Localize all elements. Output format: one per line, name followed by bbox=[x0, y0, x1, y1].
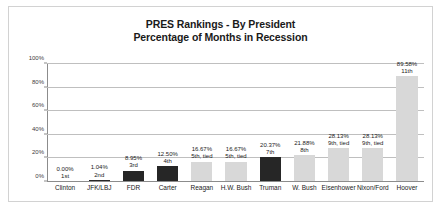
x-axis-category-label: JFK/LBJ bbox=[82, 184, 116, 191]
y-axis-tick-label: 100% bbox=[29, 55, 44, 61]
bar-rank-label: 2nd bbox=[91, 172, 108, 179]
chart-title-line-1: PRES Rankings - By President bbox=[9, 18, 432, 31]
x-axis-line bbox=[47, 181, 424, 182]
bar-rank-label: 3rd bbox=[125, 162, 142, 169]
bar-rank-label: 9th, tied bbox=[328, 140, 349, 147]
chart-title-line-2: Percentage of Months in Recession bbox=[9, 31, 432, 44]
x-axis-category-label: Nixon/Ford bbox=[356, 184, 390, 191]
y-axis-tick-mark bbox=[44, 133, 47, 134]
y-axis-tick-label: 60% bbox=[32, 102, 44, 108]
bar[interactable]: 12.50%4th bbox=[157, 166, 178, 181]
x-axis-category-label: H.W. Bush bbox=[219, 184, 253, 191]
bar-value-label: 21.88% bbox=[294, 140, 314, 147]
x-axis-category-label: Eisenhower bbox=[322, 184, 356, 191]
bar-slot: 16.67%5th, tied bbox=[185, 64, 219, 181]
y-axis-tick-mark bbox=[44, 157, 47, 158]
bar-value-label: 28.13% bbox=[328, 133, 349, 140]
bar[interactable]: 28.13%9th, tied bbox=[328, 148, 349, 181]
x-axis-category-labels: ClintonJFK/LBJFDRCarterReaganH.W. BushTr… bbox=[48, 184, 424, 191]
bar-value-label: 8.95% bbox=[125, 155, 142, 162]
bar[interactable]: 20.37%7th bbox=[260, 157, 281, 181]
bar-slot: 89.58%11th bbox=[390, 64, 424, 181]
bar-data-label: 89.58%11th bbox=[397, 61, 417, 75]
bar-slot: 12.50%4th bbox=[151, 64, 185, 181]
bar-data-label: 16.67%5th, tied bbox=[191, 146, 212, 160]
bar-rank-label: 8th bbox=[294, 147, 314, 154]
bar[interactable]: 89.58%11th bbox=[396, 76, 417, 181]
bar-series: 0.00%1st1.04%2nd8.95%3rd12.50%4th16.67%5… bbox=[48, 64, 424, 181]
bar-slot: 0.00%1st bbox=[48, 64, 82, 181]
bar-rank-label: 7th bbox=[260, 149, 280, 156]
y-axis-tick-label: 80% bbox=[32, 79, 44, 85]
bar-data-label: 1.04%2nd bbox=[91, 164, 108, 178]
bar[interactable]: 8.95%3rd bbox=[123, 171, 144, 181]
bar-value-label: 1.04% bbox=[91, 164, 108, 171]
bar[interactable]: 28.13%9th, tied bbox=[362, 148, 383, 181]
x-axis-category-label: FDR bbox=[116, 184, 150, 191]
bar-rank-label: 9th, tied bbox=[362, 140, 383, 147]
bar-value-label: 89.58% bbox=[397, 61, 417, 68]
x-axis-category-label: Carter bbox=[151, 184, 185, 191]
bar-data-label: 21.88%8th bbox=[294, 140, 314, 154]
bar-data-label: 8.95%3rd bbox=[125, 155, 142, 169]
bar-slot: 20.37%7th bbox=[253, 64, 287, 181]
x-axis-category-label: Clinton bbox=[48, 184, 82, 191]
bar-data-label: 20.37%7th bbox=[260, 142, 280, 156]
bar-value-label: 20.37% bbox=[260, 142, 280, 149]
y-axis-tick-label: 20% bbox=[32, 149, 44, 155]
chart-title: PRES Rankings - By President Percentage … bbox=[9, 18, 432, 43]
y-axis-tick-mark bbox=[44, 86, 47, 87]
bar-data-label: 0.00%1st bbox=[57, 166, 74, 180]
x-axis-category-label: Truman bbox=[253, 184, 287, 191]
x-axis-category-label: Reagan bbox=[185, 184, 219, 191]
bar-slot: 21.88%8th bbox=[287, 64, 321, 181]
bar-value-label: 0.00% bbox=[57, 166, 74, 173]
bar-data-label: 28.13%9th, tied bbox=[328, 133, 349, 147]
bar[interactable]: 16.67%5th, tied bbox=[191, 162, 212, 182]
bar-slot: 28.13%9th, tied bbox=[322, 64, 356, 181]
y-axis-tick-label: 0% bbox=[35, 173, 44, 179]
y-axis-tick-mark bbox=[44, 110, 47, 111]
y-axis-tick-label: 40% bbox=[32, 126, 44, 132]
bar-data-label: 16.67%5th, tied bbox=[225, 146, 246, 160]
bar-slot: 16.67%5th, tied bbox=[219, 64, 253, 181]
bar-data-label: 12.50%4th bbox=[157, 151, 177, 165]
bar[interactable]: 16.67%5th, tied bbox=[225, 162, 246, 182]
bar-slot: 28.13%9th, tied bbox=[356, 64, 390, 181]
bar-rank-label: 1st bbox=[57, 173, 74, 180]
bar-value-label: 16.67% bbox=[225, 146, 246, 153]
bar-value-label: 12.50% bbox=[157, 151, 177, 158]
bar-slot: 1.04%2nd bbox=[82, 64, 116, 181]
bar-rank-label: 5th, tied bbox=[225, 153, 246, 160]
bar[interactable]: 21.88%8th bbox=[294, 155, 315, 181]
chart-frame: PRES Rankings - By President Percentage … bbox=[8, 6, 433, 202]
bar-value-label: 28.13% bbox=[362, 133, 383, 140]
x-axis-category-label: Hoover bbox=[390, 184, 424, 191]
bar-slot: 8.95%3rd bbox=[116, 64, 150, 181]
x-axis-category-label: W. Bush bbox=[287, 184, 321, 191]
bar-rank-label: 11th bbox=[397, 68, 417, 75]
bar-rank-label: 4th bbox=[157, 158, 177, 165]
bar-rank-label: 5th, tied bbox=[191, 153, 212, 160]
bar-value-label: 16.67% bbox=[191, 146, 212, 153]
bar-data-label: 28.13%9th, tied bbox=[362, 133, 383, 147]
y-axis-tick-mark bbox=[44, 63, 47, 64]
plot-area: 0%20%40%60%80%100% 0.00%1st1.04%2nd8.95%… bbox=[47, 64, 424, 182]
